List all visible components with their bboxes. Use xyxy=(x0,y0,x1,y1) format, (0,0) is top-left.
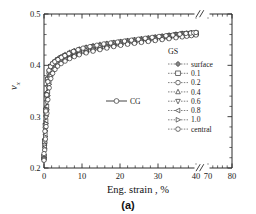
data-point-marker xyxy=(112,44,116,48)
data-point-marker xyxy=(164,34,168,38)
data-point-marker xyxy=(81,46,85,50)
x-tick-label: 70 xyxy=(204,171,213,181)
figure-caption: (a) xyxy=(121,199,135,211)
data-point-marker xyxy=(143,36,147,40)
data-point-marker xyxy=(184,31,188,35)
figure-panel-a: 0102030407080 0.20.30.40.5 GSsurface0.10… xyxy=(0,0,256,214)
x-tick-label: 30 xyxy=(154,171,163,181)
data-point-marker xyxy=(46,79,50,83)
data-point-marker xyxy=(175,61,181,67)
data-point-marker xyxy=(72,54,76,58)
data-point-marker xyxy=(105,46,109,50)
chart-canvas: 0102030407080 0.20.30.40.5 GSsurface0.10… xyxy=(0,0,256,214)
legend-item-cg-label: CG xyxy=(130,97,141,106)
legend-item-0-1[interactable]: 0.1 xyxy=(168,69,201,78)
y-axis-label-group: νx xyxy=(8,81,22,90)
data-point-marker xyxy=(176,118,180,123)
legend-item-0-4[interactable]: 0.4 xyxy=(168,88,201,97)
data-point-marker xyxy=(122,39,126,43)
legend: GSsurface0.10.20.40.60.81.0central xyxy=(168,47,214,134)
data-point-marker xyxy=(178,32,182,36)
data-point-marker xyxy=(67,51,71,55)
data-point-marker xyxy=(43,129,47,133)
data-point-marker xyxy=(171,33,175,37)
data-point-marker xyxy=(129,38,133,42)
x-tick-label: 10 xyxy=(78,171,87,181)
legend-item-label: 0.8 xyxy=(191,106,201,115)
data-point-marker xyxy=(176,89,181,93)
x-axis-label: Eng. strain , % xyxy=(107,184,169,195)
y-tick-label: 0.5 xyxy=(30,9,41,19)
legend-item-label: 1.0 xyxy=(191,115,201,124)
data-point-marker xyxy=(150,35,154,39)
data-point-marker xyxy=(102,42,106,46)
axes-frame xyxy=(44,10,232,171)
y-tick-labels: 0.20.30.40.5 xyxy=(30,9,41,173)
legend-item-label: 0.6 xyxy=(191,97,201,106)
y-tick-label: 0.4 xyxy=(30,60,41,70)
data-point-marker xyxy=(175,108,179,113)
data-point-marker xyxy=(176,80,181,85)
data-point-marker xyxy=(157,34,161,38)
data-point-marker xyxy=(76,48,80,52)
data-point-marker xyxy=(47,86,51,90)
inline-legend-cg: CG xyxy=(106,97,141,106)
x-tick-label: 20 xyxy=(116,171,125,181)
legend-title: GS xyxy=(168,47,178,56)
data-point-marker xyxy=(59,61,63,65)
x-tick-label: 0 xyxy=(42,171,46,181)
data-point-marker xyxy=(71,49,75,53)
legend-item-label: 0.2 xyxy=(191,78,201,87)
legend-item-0-2[interactable]: 0.2 xyxy=(168,78,201,87)
data-point-marker xyxy=(45,93,49,97)
data-point-marker xyxy=(77,53,81,57)
legend-item-0-6[interactable]: 0.6 xyxy=(168,97,201,106)
legend-item-1-0[interactable]: 1.0 xyxy=(168,115,201,124)
legend-item-cg[interactable]: CG xyxy=(106,97,141,106)
data-point-marker xyxy=(108,41,112,45)
x-tick-label: 40 xyxy=(192,171,201,181)
legend-item-label: central xyxy=(191,125,212,134)
x-tick-label: 80 xyxy=(228,171,237,181)
data-point-marker xyxy=(95,43,99,47)
y-tick-label: 0.3 xyxy=(30,112,41,122)
legend-item-label: surface xyxy=(191,60,214,69)
data-point-marker xyxy=(46,97,50,101)
x-tick-labels: 0102030407080 xyxy=(42,171,236,181)
legend-item-central[interactable]: central xyxy=(168,125,212,134)
data-point-marker xyxy=(63,59,67,63)
legend-item-surface[interactable]: surface xyxy=(168,60,214,69)
legend-item-0-8[interactable]: 0.8 xyxy=(168,106,201,115)
data-point-marker xyxy=(176,99,181,103)
legend-item-label: 0.1 xyxy=(191,69,201,78)
data-point-marker xyxy=(114,99,119,104)
data-point-marker xyxy=(88,44,92,48)
legend-item-label: 0.4 xyxy=(191,88,201,97)
data-point-marker xyxy=(91,49,95,53)
data-point-marker xyxy=(136,37,140,41)
data-point-marker xyxy=(44,124,48,128)
data-point-marker xyxy=(67,56,71,60)
data-point-marker xyxy=(176,71,181,76)
data-point-marker xyxy=(194,30,198,34)
y-tick-label: 0.2 xyxy=(30,163,41,173)
data-point-marker xyxy=(98,47,102,51)
data-point-marker xyxy=(44,109,48,113)
data-point-marker xyxy=(43,137,47,141)
data-point-marker xyxy=(115,40,119,44)
y-axis-label: νx xyxy=(8,81,22,90)
data-point-marker xyxy=(42,151,46,155)
data-point-marker xyxy=(42,158,46,162)
data-point-marker xyxy=(84,51,88,55)
data-point-marker xyxy=(176,127,181,132)
